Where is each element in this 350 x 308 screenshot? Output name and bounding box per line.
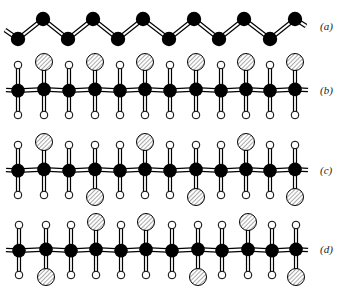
carbon-atom <box>288 12 302 26</box>
carbon-atom <box>113 164 127 178</box>
hydrogen-atom <box>194 221 202 229</box>
carbon-atom <box>138 83 152 97</box>
carbon-atom <box>214 84 228 98</box>
panel-label-c: (c) <box>320 164 332 176</box>
substituent-atom <box>288 269 305 286</box>
carbon-atom <box>263 32 277 46</box>
hydrogen-atom <box>65 111 73 119</box>
hydrogen-atom <box>266 61 274 69</box>
carbon-atom <box>162 32 176 46</box>
panel-label-b: (b) <box>320 84 333 96</box>
hydrogen-atom <box>40 191 48 199</box>
substituent-atom <box>188 189 205 206</box>
hydrogen-atom <box>291 111 299 119</box>
carbon-atom <box>212 32 226 46</box>
hydrogen-atom <box>291 141 299 149</box>
polymer-chains-diagram <box>0 0 350 308</box>
hydrogen-atom <box>67 221 75 229</box>
hydrogen-atom <box>166 191 174 199</box>
carbon-atom <box>241 243 255 257</box>
carbon-atom <box>113 84 127 98</box>
hydrogen-atom <box>40 111 48 119</box>
hydrogen-atom <box>116 111 124 119</box>
carbon-atom <box>239 83 253 97</box>
hydrogen-atom <box>242 191 250 199</box>
carbon-atom <box>214 164 228 178</box>
hydrogen-atom <box>166 141 174 149</box>
carbon-atom <box>263 164 277 178</box>
carbon-atom <box>88 83 102 97</box>
hydrogen-atom <box>65 141 73 149</box>
substituent-atom <box>238 54 255 71</box>
carbon-atom <box>165 244 179 258</box>
hydrogen-atom <box>91 111 99 119</box>
carbon-atom <box>265 244 279 258</box>
substituent-atom <box>138 214 155 231</box>
hydrogen-atom <box>116 191 124 199</box>
panel-label-d: (d) <box>320 243 333 255</box>
hydrogen-atom <box>168 221 176 229</box>
carbon-atom <box>11 32 25 46</box>
hydrogen-atom <box>218 221 226 229</box>
substituent-atom <box>36 54 53 71</box>
carbon-atom <box>163 164 177 178</box>
hydrogen-atom <box>15 221 23 229</box>
substituent-atom <box>36 134 53 151</box>
hydrogen-atom <box>242 111 250 119</box>
carbon-atom <box>11 84 25 98</box>
carbon-atom <box>36 12 50 26</box>
hydrogen-atom <box>117 271 125 279</box>
hydrogen-atom <box>266 111 274 119</box>
carbon-atom <box>187 12 201 26</box>
substituent-atom <box>87 189 104 206</box>
hydrogen-atom <box>266 141 274 149</box>
substituent-atom <box>188 54 205 71</box>
substituent-atom <box>287 189 304 206</box>
hydrogen-atom <box>166 61 174 69</box>
carbon-atom <box>86 12 100 26</box>
hydrogen-atom <box>14 111 22 119</box>
hydrogen-atom <box>116 141 124 149</box>
carbon-atom <box>62 84 76 98</box>
substituent-atom <box>38 269 55 286</box>
hydrogen-atom <box>116 61 124 69</box>
carbon-atom <box>239 163 253 177</box>
hydrogen-atom <box>92 271 100 279</box>
substituent-atom <box>190 269 207 286</box>
hydrogen-atom <box>141 191 149 199</box>
hydrogen-atom <box>91 141 99 149</box>
carbon-atom <box>215 244 229 258</box>
hydrogen-atom <box>292 221 300 229</box>
carbon-atom <box>61 32 75 46</box>
hydrogen-atom <box>192 141 200 149</box>
substituent-atom <box>238 134 255 151</box>
chain-b-isotactic <box>6 54 308 119</box>
substituent-atom <box>88 214 105 231</box>
carbon-atom <box>288 163 302 177</box>
hydrogen-atom <box>168 271 176 279</box>
hydrogen-atom <box>67 271 75 279</box>
substituent-atom <box>287 54 304 71</box>
hydrogen-atom <box>117 221 125 229</box>
hydrogen-atom <box>268 271 276 279</box>
hydrogen-atom <box>268 221 276 229</box>
hydrogen-atom <box>266 191 274 199</box>
substituent-atom <box>240 214 257 231</box>
panel-label-a: (a) <box>320 20 333 32</box>
carbon-atom <box>139 243 153 257</box>
substituent-atom <box>137 134 154 151</box>
carbon-atom <box>88 163 102 177</box>
hydrogen-atom <box>218 271 226 279</box>
hydrogen-atom <box>65 61 73 69</box>
hydrogen-atom <box>141 111 149 119</box>
carbon-atom <box>11 164 25 178</box>
carbon-atom <box>62 164 76 178</box>
hydrogen-atom <box>142 271 150 279</box>
carbon-atom <box>89 243 103 257</box>
carbon-atom <box>189 163 203 177</box>
carbon-atom <box>189 83 203 97</box>
hydrogen-atom <box>217 111 225 119</box>
hydrogen-atom <box>217 141 225 149</box>
carbon-atom <box>191 243 205 257</box>
carbon-atom <box>237 12 251 26</box>
